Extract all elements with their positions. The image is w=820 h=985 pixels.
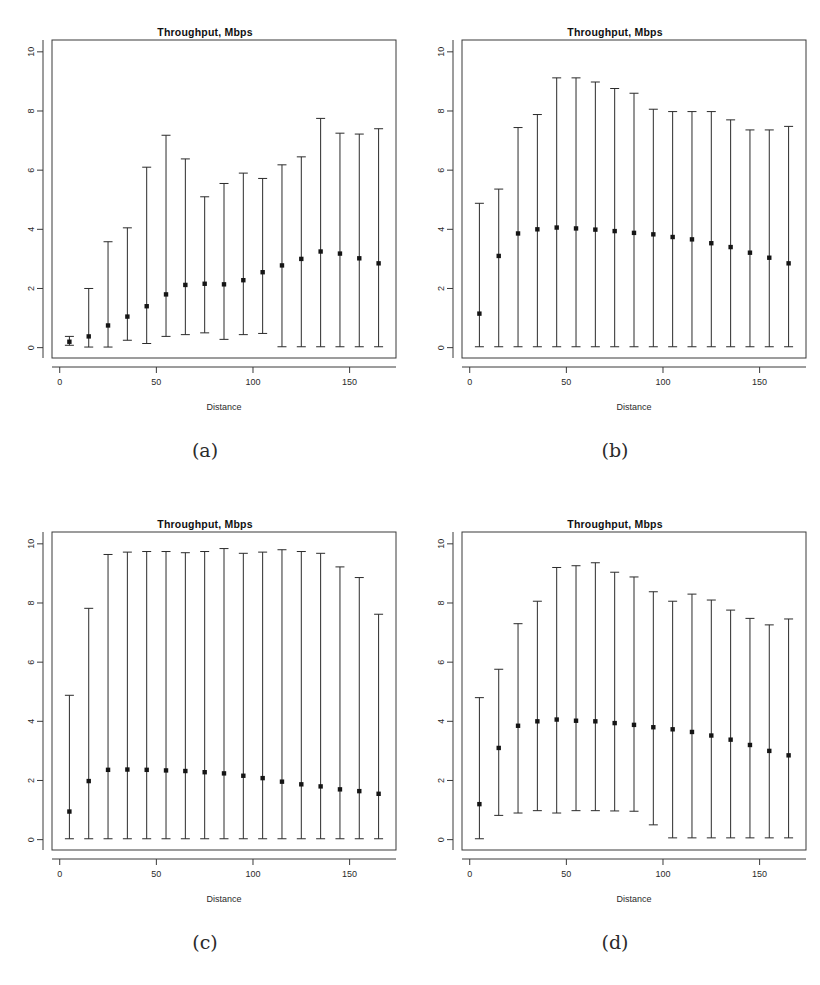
error-bar-group bbox=[200, 197, 209, 333]
error-bar-group bbox=[572, 78, 581, 347]
y-axis-tick-label: 10 bbox=[26, 47, 36, 57]
mean-marker bbox=[670, 235, 674, 239]
x-axis-tick-label: 50 bbox=[151, 377, 161, 387]
mean-marker bbox=[318, 249, 322, 253]
mean-marker bbox=[632, 723, 636, 727]
error-bar-group bbox=[649, 592, 658, 825]
error-bar-group bbox=[533, 115, 542, 347]
error-bar-group bbox=[316, 118, 325, 346]
y-axis-tick-label: 0 bbox=[436, 345, 446, 350]
panel-c-canvas: 0246810050100150Distance bbox=[0, 492, 410, 912]
y-axis-tick-label: 2 bbox=[26, 286, 36, 291]
y-axis-tick-label: 6 bbox=[26, 168, 36, 173]
plot-area-a: 0246810050100150Distance bbox=[0, 0, 410, 420]
mean-marker bbox=[164, 768, 168, 772]
y-axis-tick-label: 2 bbox=[436, 778, 446, 783]
error-bar-group bbox=[765, 625, 774, 838]
error-bar-group bbox=[200, 552, 209, 839]
y-axis-tick-label: 10 bbox=[436, 47, 446, 57]
error-bar-group bbox=[591, 82, 600, 347]
mean-marker bbox=[260, 270, 264, 274]
plot-area-c: 0246810050100150Distance bbox=[0, 492, 410, 912]
y-axis-tick-label: 10 bbox=[26, 539, 36, 549]
error-bar-group bbox=[610, 89, 619, 347]
error-bar-group bbox=[687, 594, 696, 838]
mean-marker bbox=[106, 768, 110, 772]
mean-marker bbox=[497, 254, 501, 258]
mean-marker bbox=[280, 779, 284, 783]
mean-marker bbox=[477, 311, 481, 315]
mean-marker bbox=[125, 767, 129, 771]
mean-marker bbox=[690, 237, 694, 241]
error-bar-group bbox=[297, 157, 306, 347]
mean-marker bbox=[535, 227, 539, 231]
error-bar-group bbox=[104, 554, 113, 838]
error-bar-group bbox=[297, 552, 306, 839]
mean-marker bbox=[318, 784, 322, 788]
error-bar-group bbox=[514, 624, 523, 813]
mean-marker bbox=[87, 779, 91, 783]
error-bar-group bbox=[84, 288, 93, 347]
error-bar-group bbox=[552, 78, 561, 347]
y-axis-tick-label: 6 bbox=[436, 660, 446, 665]
y-axis-tick-label: 4 bbox=[436, 719, 446, 724]
mean-marker bbox=[728, 737, 732, 741]
panel-b-caption: (b) bbox=[410, 420, 820, 480]
y-axis-tick-label: 0 bbox=[26, 345, 36, 350]
mean-marker bbox=[748, 250, 752, 254]
mean-marker bbox=[376, 792, 380, 796]
error-bar-group bbox=[220, 549, 229, 839]
panel-b-plot: Throughput, Mbps 0246810050100150Distanc… bbox=[410, 0, 820, 420]
mean-marker bbox=[651, 725, 655, 729]
error-bar-group bbox=[745, 618, 754, 837]
plot-area-b: 0246810050100150Distance bbox=[410, 0, 820, 420]
error-bar-group bbox=[374, 129, 383, 347]
error-bar-group bbox=[162, 135, 171, 336]
mean-marker bbox=[67, 340, 71, 344]
error-bar-group bbox=[239, 173, 248, 335]
panel-d: Throughput, Mbps 0246810050100150Distanc… bbox=[410, 492, 820, 984]
x-axis-title: Distance bbox=[616, 894, 651, 904]
y-axis-tick-label: 0 bbox=[26, 837, 36, 842]
y-axis-tick-label: 2 bbox=[26, 778, 36, 783]
panel-d-canvas: 0246810050100150Distance bbox=[410, 492, 820, 912]
error-bar-group bbox=[475, 698, 484, 839]
mean-marker bbox=[728, 245, 732, 249]
error-bar-group bbox=[220, 183, 229, 339]
mean-marker bbox=[554, 225, 558, 229]
x-axis-tick-label: 50 bbox=[561, 377, 571, 387]
mean-marker bbox=[748, 743, 752, 747]
mean-marker bbox=[497, 746, 501, 750]
error-bar-group bbox=[355, 578, 364, 839]
mean-marker bbox=[241, 774, 245, 778]
mean-marker bbox=[690, 730, 694, 734]
y-axis-tick-label: 8 bbox=[436, 108, 446, 113]
plot-area-d: 0246810050100150Distance bbox=[410, 492, 820, 912]
y-axis-tick-label: 4 bbox=[436, 227, 446, 232]
mean-marker bbox=[202, 282, 206, 286]
error-bar-group bbox=[277, 550, 286, 839]
panel-c: Throughput, Mbps 0246810050100150Distanc… bbox=[0, 492, 410, 984]
mean-marker bbox=[767, 256, 771, 260]
mean-marker bbox=[709, 241, 713, 245]
panel-b-canvas: 0246810050100150Distance bbox=[410, 0, 820, 420]
x-axis-tick-label: 150 bbox=[752, 377, 767, 387]
panel-d-caption: (d) bbox=[410, 912, 820, 972]
error-bar-group bbox=[162, 552, 171, 839]
error-bar-group bbox=[630, 93, 639, 347]
mean-marker bbox=[516, 231, 520, 235]
mean-marker bbox=[144, 768, 148, 772]
x-axis-tick-label: 50 bbox=[151, 869, 161, 879]
error-bar-group bbox=[668, 112, 677, 347]
error-bar-group bbox=[668, 601, 677, 838]
error-bar-group bbox=[494, 669, 503, 815]
error-bar-group bbox=[335, 133, 344, 347]
mean-marker bbox=[709, 733, 713, 737]
x-axis-tick-label: 0 bbox=[467, 869, 472, 879]
mean-marker bbox=[632, 231, 636, 235]
y-axis-tick-label: 2 bbox=[436, 286, 446, 291]
error-bar-group bbox=[726, 610, 735, 838]
mean-marker bbox=[222, 771, 226, 775]
x-axis-tick-label: 100 bbox=[245, 377, 260, 387]
mean-marker bbox=[260, 776, 264, 780]
